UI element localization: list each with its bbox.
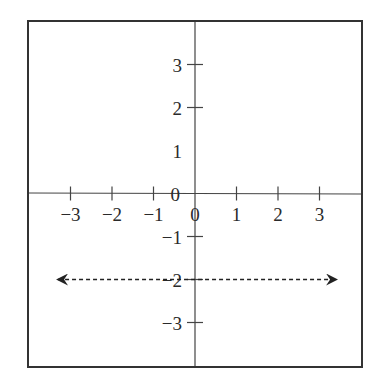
x-tick-label: −3 [60, 204, 80, 225]
x-tick-label: 0 [190, 204, 200, 225]
y-tick-label: −1 [162, 227, 182, 248]
x-tick-label: 1 [232, 204, 242, 225]
x-tick-label: 3 [315, 204, 325, 225]
y-tick-label: 2 [173, 98, 183, 119]
x-tick-label: −1 [143, 204, 163, 225]
coordinate-plane: −3−2−10123 3210−1−2−3 [0, 0, 376, 391]
x-tick-label: −2 [102, 204, 122, 225]
y-tick-label: 3 [173, 55, 183, 76]
x-ticks: −3−2−10123 [60, 187, 324, 225]
y-tick-label: 0 [171, 184, 181, 205]
y-tick-label: 1 [173, 141, 183, 162]
x-tick-label: 2 [273, 204, 283, 225]
y-tick-label: −3 [162, 313, 182, 334]
